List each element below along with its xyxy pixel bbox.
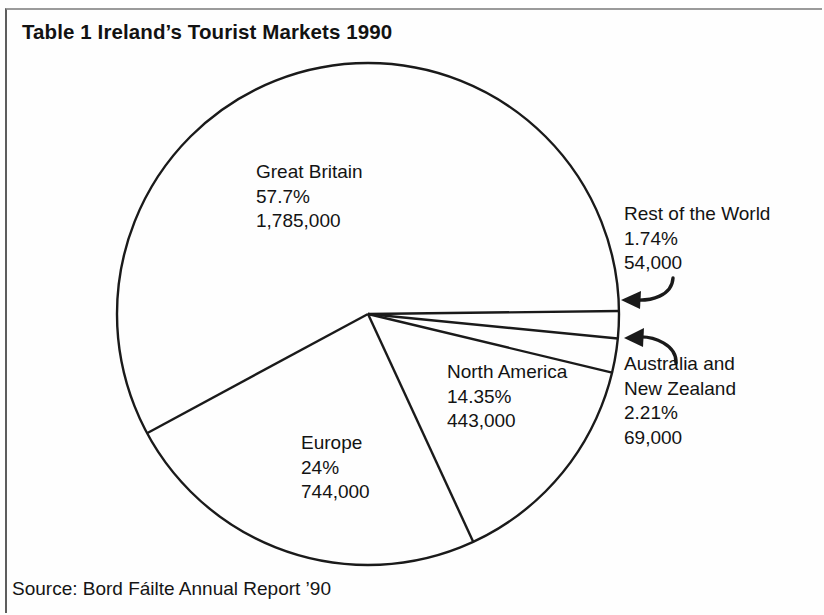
pie-label-great-britain-value: 1,785,000 [256, 209, 363, 234]
pie-label-europe-value: 744,000 [301, 480, 370, 505]
pie-label-great-britain-name: Great Britain [256, 160, 363, 185]
figure-source-note: Source: Bord Fáilte Annual Report ’90 [12, 578, 331, 600]
pie-label-great-britain-percent: 57.7% [256, 185, 363, 210]
leader-arrow-rest-of-world-icon [621, 278, 673, 309]
pie-label-rest-of-world: Rest of the World 1.74% 54,000 [624, 202, 770, 276]
divider-europe-greatbritain [147, 314, 368, 433]
pie-label-rest-of-world-value: 54,000 [624, 251, 770, 276]
pie-label-rest-of-world-percent: 1.74% [624, 227, 770, 252]
pie-label-australia-new-zealand-value: 69,000 [624, 426, 736, 451]
pie-label-europe-name: Europe [301, 431, 370, 456]
pie-label-north-america-value: 443,000 [447, 409, 567, 434]
divider-greatbritain-restofworld [368, 311, 619, 314]
divider-restofworld-australianz [368, 314, 618, 339]
pie-label-rest-of-world-name: Rest of the World [624, 202, 770, 227]
pie-label-europe-percent: 24% [301, 456, 370, 481]
pie-label-australia-new-zealand-name-line1: Australia and [624, 352, 736, 377]
pie-label-australia-new-zealand-percent: 2.21% [624, 401, 736, 426]
pie-label-north-america-name: North America [447, 360, 567, 385]
pie-chart [0, 0, 824, 615]
pie-label-australia-new-zealand-name-line2: New Zealand [624, 377, 736, 402]
pie-label-australia-new-zealand: Australia and New Zealand 2.21% 69,000 [624, 352, 736, 451]
figure-page: Table 1 Ireland’s Tourist Markets 1990 G… [0, 0, 824, 615]
pie-label-europe: Europe 24% 744,000 [301, 431, 370, 505]
pie-label-great-britain: Great Britain 57.7% 1,785,000 [256, 160, 363, 234]
pie-label-north-america: North America 14.35% 443,000 [447, 360, 567, 434]
pie-label-north-america-percent: 14.35% [447, 385, 567, 410]
